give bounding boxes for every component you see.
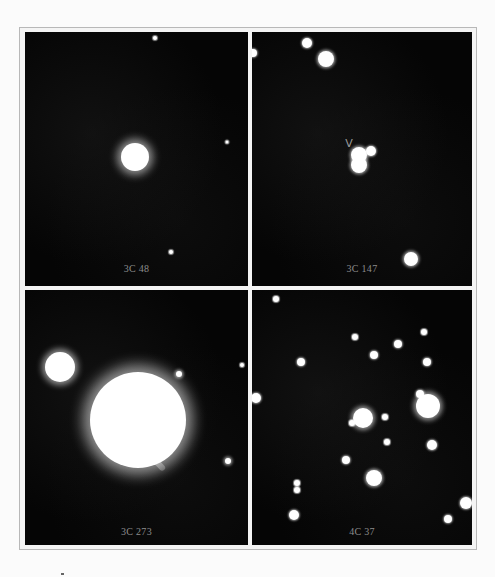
star [382, 414, 388, 420]
panel-label: 4C 37 [252, 526, 472, 537]
star [169, 250, 173, 254]
photo-panel-3c273: 3C 273 [25, 290, 248, 545]
star [366, 146, 376, 156]
star [45, 352, 75, 382]
star [421, 329, 427, 335]
panel-label: 3C 147 [252, 263, 472, 274]
panel-label: 3C 273 [25, 526, 248, 537]
star [226, 141, 229, 144]
star [294, 487, 300, 493]
star [444, 515, 452, 523]
star [460, 497, 472, 509]
star [384, 439, 390, 445]
print-speck [61, 573, 64, 575]
star [353, 408, 373, 428]
photo-panel-3c48: 3C 48 [25, 32, 248, 286]
star [297, 358, 305, 366]
star [240, 363, 244, 367]
photo-panel-3c147: V3C 147 [252, 32, 472, 286]
star [427, 440, 437, 450]
star [351, 157, 367, 173]
star [423, 358, 431, 366]
star [225, 458, 231, 464]
star [176, 371, 182, 377]
star [153, 36, 157, 40]
panel-label: 3C 48 [25, 263, 248, 274]
star [294, 480, 300, 486]
star [366, 470, 382, 486]
star [349, 420, 355, 426]
arrow-marker-icon: V [345, 137, 353, 150]
photo-panel-4c37: 4C 37 [252, 290, 472, 545]
star [289, 510, 299, 520]
star [342, 456, 350, 464]
star [90, 372, 186, 468]
star [302, 38, 312, 48]
star [370, 351, 378, 359]
star [416, 394, 440, 418]
star [121, 143, 149, 171]
star [394, 340, 402, 348]
star [318, 51, 334, 67]
star [273, 296, 279, 302]
star [352, 334, 358, 340]
